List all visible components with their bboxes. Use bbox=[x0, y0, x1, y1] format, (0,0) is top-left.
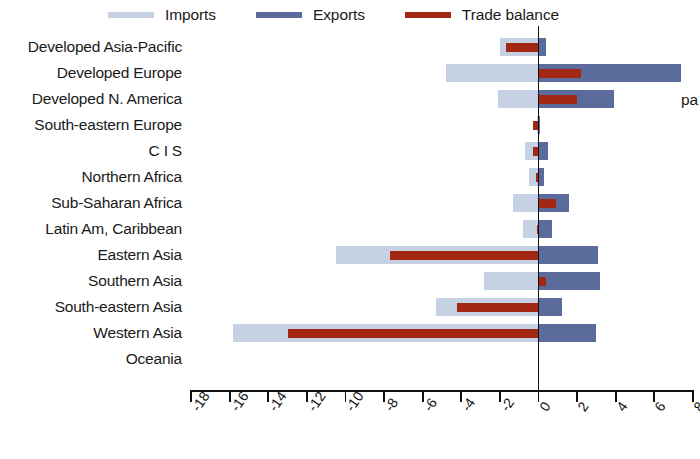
bar-exports[interactable] bbox=[539, 38, 547, 56]
bar-row bbox=[191, 268, 693, 294]
bar-exports[interactable] bbox=[539, 168, 545, 186]
category-axis-labels: Developed Asia-PacificDeveloped EuropeDe… bbox=[0, 30, 186, 390]
legend-label-exports: Exports bbox=[313, 6, 365, 24]
legend-label-balance: Trade balance bbox=[462, 6, 559, 24]
bar-row bbox=[191, 34, 693, 60]
bar-balance[interactable] bbox=[539, 277, 547, 286]
bar-exports[interactable] bbox=[539, 324, 597, 342]
legend-label-imports: Imports bbox=[165, 6, 216, 24]
category-label: Oceania bbox=[126, 346, 182, 372]
bar-row bbox=[191, 112, 693, 138]
axis-tick-label: 6 bbox=[651, 399, 669, 415]
bar-balance[interactable] bbox=[288, 329, 539, 338]
chart-legend: ImportsExportsTrade balance bbox=[0, 0, 700, 30]
legend-swatch-balance bbox=[405, 12, 451, 18]
chart-container: ImportsExportsTrade balance Developed As… bbox=[0, 0, 700, 459]
bar-balance[interactable] bbox=[390, 251, 539, 260]
bar-row bbox=[191, 164, 693, 190]
bar-row bbox=[191, 138, 693, 164]
bar-imports[interactable] bbox=[513, 194, 538, 212]
axis-tick-label: 4 bbox=[613, 399, 631, 415]
bar-row bbox=[191, 86, 693, 112]
bar-exports[interactable] bbox=[539, 142, 549, 160]
overflow-label: pa bbox=[681, 91, 698, 109]
bar-row bbox=[191, 346, 693, 372]
category-label: Northern Africa bbox=[82, 164, 182, 190]
bar-balance[interactable] bbox=[539, 95, 578, 104]
category-label: Western Asia bbox=[93, 320, 182, 346]
category-label: Sub-Saharan Africa bbox=[51, 190, 182, 216]
bar-balance[interactable] bbox=[539, 69, 581, 78]
bar-exports[interactable] bbox=[539, 246, 599, 264]
legend-item-imports[interactable]: Imports bbox=[108, 6, 216, 24]
bar-exports[interactable] bbox=[539, 220, 553, 238]
bar-imports[interactable] bbox=[498, 90, 539, 108]
category-label: Developed N. America bbox=[32, 86, 182, 112]
bar-imports[interactable] bbox=[484, 272, 538, 290]
bar-row bbox=[191, 216, 693, 242]
axis-tick-label: 8 bbox=[690, 399, 700, 415]
bars-layer bbox=[191, 30, 693, 390]
axis-line bbox=[191, 390, 693, 392]
axis-tick-label: 0 bbox=[536, 399, 554, 415]
bar-row bbox=[191, 60, 693, 86]
bar-balance[interactable] bbox=[506, 43, 539, 52]
bar-row bbox=[191, 294, 693, 320]
bar-row bbox=[191, 242, 693, 268]
category-label: South-eastern Europe bbox=[34, 112, 182, 138]
axis-tick-label: 2 bbox=[574, 399, 592, 415]
category-label: South-eastern Asia bbox=[55, 294, 182, 320]
legend-item-balance[interactable]: Trade balance bbox=[405, 6, 559, 24]
category-label: Developed Asia-Pacific bbox=[28, 34, 182, 60]
plot-area: Developed Asia-PacificDeveloped EuropeDe… bbox=[0, 30, 700, 390]
bar-row bbox=[191, 320, 693, 346]
category-label: Eastern Asia bbox=[97, 242, 182, 268]
category-label: C I S bbox=[149, 138, 182, 164]
category-label: Developed Europe bbox=[57, 60, 182, 86]
category-label: Southern Asia bbox=[88, 268, 182, 294]
legend-item-exports[interactable]: Exports bbox=[256, 6, 365, 24]
zero-line bbox=[538, 26, 540, 394]
bar-row bbox=[191, 190, 693, 216]
category-label: Latin Am, Caribbean bbox=[45, 216, 182, 242]
legend-swatch-exports bbox=[256, 12, 302, 18]
bar-balance[interactable] bbox=[539, 199, 556, 208]
value-axis: -18-16-14-12-10-8-6-4-202468 bbox=[191, 390, 693, 459]
bar-exports[interactable] bbox=[539, 272, 601, 290]
bar-balance[interactable] bbox=[457, 303, 538, 312]
legend-swatch-imports bbox=[108, 12, 154, 18]
bar-exports[interactable] bbox=[539, 298, 562, 316]
bar-imports[interactable] bbox=[446, 64, 539, 82]
